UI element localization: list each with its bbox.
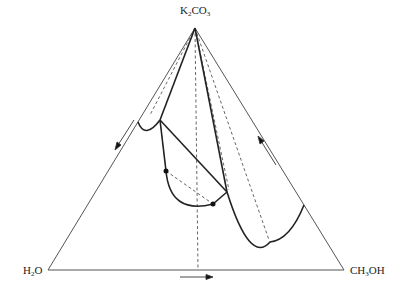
arrow-right-edge-icon: [258, 136, 276, 165]
vertex-label-h2o: H2O: [23, 265, 42, 278]
arrow-left-edge-icon: [115, 120, 134, 150]
ternary-diagram: K2CO3 H2O CH3OH: [0, 0, 400, 294]
dashed-lines: [150, 28, 269, 270]
triangle-outline: [48, 28, 344, 270]
arrows: [115, 120, 276, 280]
arrow-bottom-edge-icon: [180, 275, 213, 280]
vertex-label-ch3oh: CH3OH: [350, 265, 385, 278]
point-right: [211, 202, 216, 207]
phase-boundaries: [138, 28, 304, 248]
point-left: [164, 169, 169, 174]
vertex-label-k2co3: K2CO3: [180, 5, 210, 18]
ternary-diagram-svg: [0, 0, 400, 294]
